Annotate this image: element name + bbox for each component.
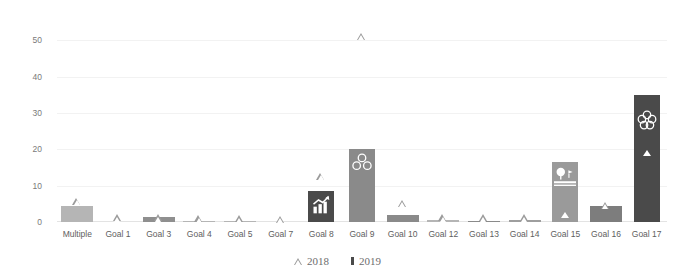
chart-column[interactable] <box>382 22 423 222</box>
bar-2019[interactable] <box>634 95 660 222</box>
bar-2019[interactable] <box>143 217 175 222</box>
marker-2018 <box>113 214 121 221</box>
chart-column[interactable] <box>138 22 179 222</box>
chart-column[interactable] <box>57 22 98 222</box>
bar-2019[interactable] <box>183 221 215 223</box>
x-axis-label: Goal 4 <box>179 228 220 240</box>
bar-2019[interactable] <box>61 206 93 222</box>
chart-column[interactable] <box>260 22 301 222</box>
bar-2019[interactable] <box>224 221 256 223</box>
x-axis-label: Goal 3 <box>138 228 179 240</box>
y-axis-tick-label: 20 <box>2 145 42 154</box>
plot-area: 01020304050 <box>57 22 667 222</box>
marker-2018 <box>357 33 365 40</box>
legend-label-2019: 2019 <box>359 255 381 267</box>
sdg-goal-bar-chart: 01020304050 MultipleGoal 1Goal 3Goal 4Go… <box>0 0 675 279</box>
legend-item-2018[interactable]: 2018 <box>294 255 329 267</box>
x-axis-label: Goal 16 <box>586 228 627 240</box>
x-axis-label: Goal 13 <box>464 228 505 240</box>
chart-column[interactable] <box>98 22 139 222</box>
marker-2018 <box>317 173 325 180</box>
y-axis-tick-label: 0 <box>2 218 42 227</box>
chart-column[interactable] <box>464 22 505 222</box>
growth-chart-icon <box>311 195 331 219</box>
legend-item-2019[interactable]: 2019 <box>351 255 381 267</box>
legend-label-2018: 2018 <box>307 255 329 267</box>
x-axis-label: Goal 17 <box>626 228 667 240</box>
bar-2019[interactable] <box>590 206 622 222</box>
bar-2019[interactable] <box>349 149 375 222</box>
x-axis-label: Goal 15 <box>545 228 586 240</box>
chart-column[interactable] <box>545 22 586 222</box>
x-axis-label: Goal 14 <box>504 228 545 240</box>
bar-2019[interactable] <box>308 191 334 222</box>
factory-icon <box>351 153 373 175</box>
x-axis-label: Goal 7 <box>260 228 301 240</box>
open-triangle-icon <box>294 258 302 265</box>
x-axis-label: Goal 10 <box>382 228 423 240</box>
y-axis-tick-label: 30 <box>2 109 42 118</box>
chart-column[interactable] <box>301 22 342 222</box>
x-axis-label: Multiple <box>57 228 98 240</box>
x-axis-label: Goal 5 <box>220 228 261 240</box>
y-axis-tick-label: 10 <box>2 181 42 190</box>
y-axis-tick-label: 50 <box>2 36 42 45</box>
chart-legend: 2018 2019 <box>0 255 675 267</box>
chart-column[interactable] <box>179 22 220 222</box>
chart-column[interactable] <box>423 22 464 222</box>
marker-2018 <box>398 200 406 207</box>
chart-column[interactable] <box>504 22 545 222</box>
partnership-rings-icon <box>636 109 658 135</box>
bar-2019[interactable] <box>468 221 500 223</box>
filled-square-icon <box>351 257 354 265</box>
x-axis-label: Goal 1 <box>98 228 139 240</box>
chart-column[interactable] <box>220 22 261 222</box>
x-axis-label: Goal 8 <box>301 228 342 240</box>
bar-2019[interactable] <box>509 220 541 222</box>
bar-2019[interactable] <box>387 215 419 222</box>
marker-2018 <box>276 216 284 223</box>
x-axis-labels: MultipleGoal 1Goal 3Goal 4Goal 5Goal 7Go… <box>57 228 667 242</box>
x-axis-label: Goal 12 <box>423 228 464 240</box>
tree-land-icon <box>553 166 577 192</box>
bar-2019[interactable] <box>552 162 578 222</box>
marker-2018 <box>73 198 81 205</box>
y-axis-tick-label: 40 <box>2 72 42 81</box>
chart-column[interactable] <box>586 22 627 222</box>
chart-column[interactable] <box>342 22 383 222</box>
x-axis-label: Goal 9 <box>342 228 383 240</box>
chart-column[interactable] <box>626 22 667 222</box>
bar-2019[interactable] <box>427 220 459 222</box>
